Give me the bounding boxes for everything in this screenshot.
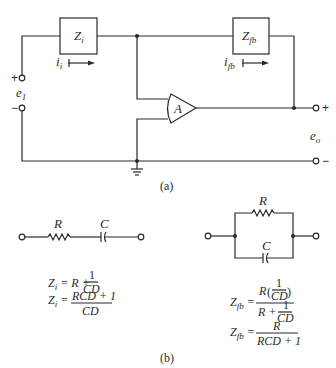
input-plus-sign: + xyxy=(11,71,18,85)
output-terminal-negative xyxy=(313,158,319,164)
feedback-return-wire xyxy=(269,36,294,108)
series-left-terminal xyxy=(19,234,25,240)
series-resistor-label: R xyxy=(53,216,62,231)
output-plus-sign: + xyxy=(322,101,329,115)
svg-text:R +: R + xyxy=(257,305,276,319)
caption-b: (b) xyxy=(160,351,174,365)
svg-text:1: 1 xyxy=(283,298,289,312)
inverting-input-wire xyxy=(137,36,168,99)
parallel-right-terminal xyxy=(313,233,319,239)
input-terminal-positive xyxy=(19,75,25,81)
svg-text:Zfb =: Zfb = xyxy=(230,295,255,311)
series-capacitor-label: C xyxy=(100,216,109,231)
op-amp-symbol: A xyxy=(168,94,197,123)
parallel-rc-network: R C Zfb = R ( 1 CD ) R + 1 CD Zfb = R RC… xyxy=(205,193,319,348)
svg-text:CD: CD xyxy=(82,304,99,318)
output-junction-dot xyxy=(292,106,296,110)
input-terminal-negative xyxy=(19,105,25,111)
output-terminal-positive xyxy=(313,105,319,111)
svg-text:RCD + 1: RCD + 1 xyxy=(71,289,116,303)
resistor-icon xyxy=(48,234,70,240)
summing-junction-dot xyxy=(135,34,139,38)
inverting-amplifier-circuit: Zi Zfb ii ifb A xyxy=(11,18,329,193)
parallel-resistor-label: R xyxy=(258,193,267,208)
amplifier-gain-label: A xyxy=(173,101,182,116)
svg-text:1: 1 xyxy=(276,276,282,290)
parallel-left-junction xyxy=(233,234,237,238)
parallel-right-junction xyxy=(291,234,295,238)
series-rc-network: R C Zi = R + 1 CD Zi = RCD + 1 CD xyxy=(19,216,144,318)
svg-text:R: R xyxy=(258,284,267,298)
input-current-label: ii xyxy=(56,54,63,71)
feedback-current-label: ifb xyxy=(224,54,235,71)
ground-icon xyxy=(131,161,143,175)
input-wire-top xyxy=(22,36,60,75)
output-voltage-label: eo xyxy=(310,128,321,145)
parallel-equation-1: Zfb = R ( 1 CD ) R + 1 CD xyxy=(230,276,294,325)
circuit-figure: Zi Zfb ii ifb A xyxy=(0,0,336,368)
svg-text:R: R xyxy=(272,319,281,333)
svg-text:): ) xyxy=(287,285,291,299)
svg-text:Zfb =: Zfb = xyxy=(230,325,255,341)
feedback-current-arrow-icon xyxy=(242,59,269,67)
svg-text:RCD + 1: RCD + 1 xyxy=(256,334,301,348)
series-right-terminal xyxy=(138,234,144,240)
input-minus-sign: − xyxy=(11,101,18,115)
svg-text:1: 1 xyxy=(89,268,95,282)
svg-text:Zi =: Zi = xyxy=(48,293,68,309)
input-current-arrow-icon xyxy=(68,59,95,67)
caption-a: (a) xyxy=(160,179,173,193)
resistor-icon xyxy=(252,210,274,216)
output-minus-sign: − xyxy=(322,154,329,168)
input-voltage-label: e1 xyxy=(16,85,26,102)
parallel-capacitor-label: C xyxy=(262,238,271,253)
parallel-left-terminal xyxy=(205,233,211,239)
noninverting-input-wire xyxy=(137,119,168,161)
series-equation-2: Zi = RCD + 1 CD xyxy=(48,289,116,318)
